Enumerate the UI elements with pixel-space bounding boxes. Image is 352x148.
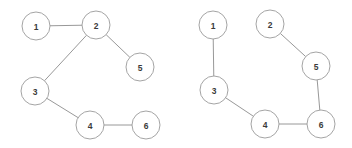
- graph-node-label: 1: [211, 21, 216, 31]
- graph-node-label: 4: [263, 120, 268, 130]
- graph-node-label: 2: [94, 21, 99, 31]
- graph-node[interactable]: 5: [126, 53, 154, 81]
- graph-edge: [45, 35, 87, 80]
- graph-node[interactable]: 4: [251, 110, 279, 138]
- graph-node[interactable]: 6: [307, 110, 335, 138]
- graph-edge: [226, 98, 254, 116]
- left-graph-nodes: 123456: [21, 11, 160, 139]
- edges-layer: [45, 25, 320, 125]
- graph-edge: [317, 80, 320, 110]
- graph-node[interactable]: 5: [302, 52, 330, 80]
- diagram-canvas: 123456123456: [0, 0, 352, 148]
- graph-edge: [106, 35, 130, 58]
- graph-node-label: 1: [34, 22, 39, 32]
- graph-node[interactable]: 4: [76, 111, 104, 139]
- graph-node-label: 3: [212, 86, 217, 96]
- graph-pair-figure: 123456123456: [0, 0, 352, 148]
- graph-node[interactable]: 1: [199, 11, 227, 39]
- graph-node-label: 4: [88, 121, 93, 131]
- graph-edge: [280, 33, 305, 56]
- graph-node[interactable]: 3: [21, 77, 49, 105]
- graph-node-label: 5: [314, 62, 319, 72]
- nodes-layer: 123456123456: [21, 10, 335, 139]
- left-graph-edges: [45, 25, 133, 125]
- right-graph-nodes: 123456: [199, 10, 335, 138]
- graph-node[interactable]: 1: [22, 12, 50, 40]
- graph-node[interactable]: 3: [200, 76, 228, 104]
- graph-node-label: 3: [33, 87, 38, 97]
- graph-node-label: 5: [138, 63, 143, 73]
- graph-edge: [213, 39, 214, 76]
- graph-node[interactable]: 2: [256, 10, 284, 38]
- graph-edge: [47, 98, 78, 117]
- graph-node[interactable]: 2: [82, 11, 110, 39]
- graph-node-label: 6: [144, 121, 149, 131]
- graph-node-label: 6: [319, 120, 324, 130]
- graph-edge: [50, 25, 82, 26]
- graph-node-label: 2: [268, 20, 273, 30]
- graph-node[interactable]: 6: [132, 111, 160, 139]
